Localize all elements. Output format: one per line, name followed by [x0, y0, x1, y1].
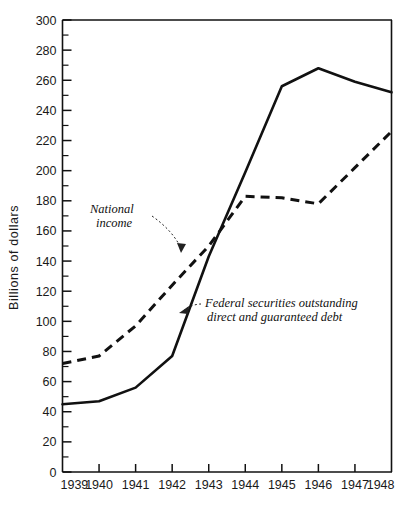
y-tick-label-160: 160 [36, 224, 57, 238]
federal-securities-label-line1: Federal securities outstanding [204, 296, 358, 310]
x-tick-label-1941: 1941 [122, 478, 150, 492]
series-national-income-line [63, 131, 392, 363]
x-tick-label-1946: 1946 [304, 478, 332, 492]
x-axis-tick-labels: 1939194019411942194319441945194619471948 [61, 478, 395, 492]
x-tick-label-1942: 1942 [158, 478, 186, 492]
y-axis-title: Billions of dollars [7, 205, 21, 310]
national-income-label-line2: income [96, 216, 133, 230]
x-tick-label-1945: 1945 [268, 478, 296, 492]
x-tick-label-1944: 1944 [231, 478, 259, 492]
y-tick-label-300: 300 [36, 14, 57, 28]
y-tick-label-20: 20 [43, 435, 57, 449]
national-income-leader-line [152, 216, 181, 248]
y-tick-label-260: 260 [36, 74, 57, 88]
y-tick-label-40: 40 [43, 405, 57, 419]
line-chart: 0204060801001201401601802002202402602803… [0, 0, 411, 506]
annotation-national-income: National income [89, 202, 186, 253]
x-tick-label-1947: 1947 [341, 478, 369, 492]
y-tick-label-180: 180 [36, 194, 57, 208]
y-tick-label-140: 140 [36, 255, 57, 269]
y-axis-title-group: Billions of dollars [7, 205, 21, 310]
x-tick-label-1940: 1940 [85, 478, 113, 492]
y-tick-label-80: 80 [43, 345, 57, 359]
x-tick-label-1943: 1943 [195, 478, 223, 492]
national-income-leader-arrowhead [177, 243, 186, 253]
y-axis-tick-labels: 0204060801001201401601802002202402602803… [36, 14, 57, 480]
annotation-federal-securities: Federal securities outstanding direct an… [179, 296, 358, 324]
plot-frame [63, 20, 393, 472]
national-income-label-line1: National [89, 202, 134, 216]
federal-securities-leader-arrowhead [179, 306, 189, 314]
y-tick-label-100: 100 [36, 315, 57, 329]
y-tick-label-120: 120 [36, 285, 57, 299]
y-tick-label-280: 280 [36, 44, 57, 58]
y-axis-minor-ticks [63, 35, 69, 457]
y-tick-label-220: 220 [36, 134, 57, 148]
x-tick-label-1948: 1948 [367, 478, 395, 492]
chart-container: 0204060801001201401601802002202402602803… [0, 0, 411, 506]
y-tick-label-0: 0 [50, 466, 57, 480]
y-tick-label-60: 60 [43, 375, 57, 389]
federal-securities-label-line2: direct and guaranteed debt [207, 310, 343, 324]
x-axis-major-ticks [99, 464, 355, 472]
series-federal-securities-line [63, 68, 392, 404]
y-tick-label-240: 240 [36, 104, 57, 118]
data-series-group [63, 68, 392, 404]
y-tick-label-200: 200 [36, 164, 57, 178]
